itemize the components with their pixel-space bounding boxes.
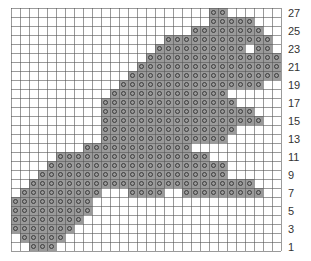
stitch-cell-empty	[74, 44, 83, 53]
stitch-cell-empty	[200, 8, 209, 17]
stitch-cell-filled	[245, 71, 254, 80]
stitch-cell-empty	[101, 188, 110, 197]
stitch-cell-empty	[11, 134, 20, 143]
stitch-cell-empty	[92, 215, 101, 224]
stitch-cell-filled	[56, 179, 65, 188]
stitch-cell-empty	[146, 8, 155, 17]
stitch-cell-filled	[236, 17, 245, 26]
stitch-cell-filled	[182, 80, 191, 89]
stitch-cell-empty	[254, 224, 263, 233]
stitch-cell-empty	[128, 44, 137, 53]
stitch-cell-empty	[83, 125, 92, 134]
stitch-cell-empty	[65, 71, 74, 80]
stitch-cell-empty	[254, 242, 263, 251]
stitch-cell-empty	[254, 107, 263, 116]
stitch-cell-empty	[119, 233, 128, 242]
stitch-cell-empty	[101, 242, 110, 251]
stitch-cell-empty	[74, 242, 83, 251]
stitch-cell-empty	[56, 62, 65, 71]
stitch-cell-filled	[47, 170, 56, 179]
stitch-cell-filled	[227, 80, 236, 89]
stitch-cell-filled	[254, 80, 263, 89]
stitch-cell-filled	[182, 134, 191, 143]
stitch-cell-empty	[47, 116, 56, 125]
stitch-cell-empty	[110, 233, 119, 242]
stitch-cell-empty	[272, 8, 281, 17]
stitch-cell-empty	[38, 26, 47, 35]
stitch-cell-empty	[83, 35, 92, 44]
stitch-cell-filled	[119, 179, 128, 188]
row-label: 17	[288, 97, 300, 109]
stitch-cell-filled	[227, 188, 236, 197]
stitch-cell-filled	[110, 98, 119, 107]
stitch-cell-empty	[11, 53, 20, 62]
stitch-cell-filled	[200, 44, 209, 53]
stitch-cell-empty	[29, 116, 38, 125]
stitch-cell-empty	[263, 197, 272, 206]
stitch-cell-empty	[11, 71, 20, 80]
row-label: 11	[288, 151, 299, 163]
stitch-cell-filled	[191, 152, 200, 161]
stitch-cell-empty	[110, 62, 119, 71]
stitch-cell-empty	[137, 44, 146, 53]
stitch-cell-empty	[92, 62, 101, 71]
stitch-cell-empty	[272, 98, 281, 107]
stitch-cell-empty	[83, 224, 92, 233]
stitch-cell-filled	[173, 161, 182, 170]
stitch-cell-empty	[74, 71, 83, 80]
stitch-cell-filled	[110, 170, 119, 179]
stitch-cell-empty	[128, 242, 137, 251]
stitch-cell-empty	[83, 26, 92, 35]
stitch-cell-empty	[155, 233, 164, 242]
stitch-cell-filled	[101, 134, 110, 143]
stitch-cell-filled	[173, 143, 182, 152]
stitch-cell-empty	[137, 26, 146, 35]
stitch-cell-empty	[92, 98, 101, 107]
stitch-cell-filled	[182, 98, 191, 107]
stitch-cell-empty	[245, 197, 254, 206]
stitch-cell-empty	[65, 80, 74, 89]
stitch-cell-empty	[74, 17, 83, 26]
stitch-cell-empty	[29, 107, 38, 116]
stitch-cell-filled	[110, 125, 119, 134]
row-label: 15	[288, 115, 300, 127]
stitch-cell-filled	[155, 107, 164, 116]
stitch-cell-filled	[110, 161, 119, 170]
stitch-cell-empty	[173, 215, 182, 224]
stitch-cell-empty	[245, 161, 254, 170]
stitch-cell-empty	[263, 98, 272, 107]
stitch-cell-filled	[164, 134, 173, 143]
stitch-cell-filled	[191, 170, 200, 179]
stitch-cell-empty	[263, 125, 272, 134]
stitch-cell-empty	[101, 224, 110, 233]
stitch-cell-filled	[191, 179, 200, 188]
stitch-cell-empty	[119, 188, 128, 197]
stitch-cell-empty	[227, 215, 236, 224]
stitch-cell-empty	[263, 143, 272, 152]
stitch-cell-filled	[38, 215, 47, 224]
stitch-cell-filled	[38, 179, 47, 188]
stitch-cell-empty	[65, 53, 74, 62]
stitch-cell-empty	[110, 206, 119, 215]
stitch-cell-empty	[92, 206, 101, 215]
stitch-cell-empty	[155, 35, 164, 44]
stitch-cell-empty	[182, 8, 191, 17]
stitch-cell-empty	[263, 107, 272, 116]
stitch-cell-filled	[209, 26, 218, 35]
stitch-cell-empty	[56, 143, 65, 152]
stitch-cell-filled	[209, 134, 218, 143]
stitch-cell-filled	[173, 44, 182, 53]
stitch-cell-empty	[29, 98, 38, 107]
stitch-cell-filled	[92, 188, 101, 197]
stitch-cell-filled	[191, 62, 200, 71]
stitch-cell-filled	[182, 116, 191, 125]
stitch-cell-empty	[119, 242, 128, 251]
stitch-cell-filled	[254, 53, 263, 62]
stitch-cell-filled	[182, 71, 191, 80]
stitch-cell-filled	[173, 89, 182, 98]
stitch-cell-empty	[47, 62, 56, 71]
stitch-cell-empty	[272, 35, 281, 44]
stitch-cell-empty	[38, 161, 47, 170]
stitch-cell-empty	[254, 161, 263, 170]
stitch-cell-filled	[254, 62, 263, 71]
